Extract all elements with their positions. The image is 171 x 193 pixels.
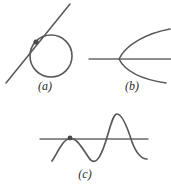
parabola-b — [119, 29, 170, 83]
panel-c-graphic — [40, 114, 148, 161]
panel-a-graphic — [6, 4, 72, 83]
figure-container: (a) (b) (c) — [0, 0, 171, 193]
figure-graphics — [0, 0, 171, 193]
panel-label-c: (c) — [67, 168, 103, 180]
panel-b-graphic — [89, 29, 171, 83]
panel-label-b: (b) — [114, 80, 150, 92]
panel-label-a: (a) — [27, 80, 63, 92]
tangent-point-c — [68, 136, 73, 141]
wave-curve-c — [52, 114, 147, 161]
tangent-point-a — [33, 39, 38, 44]
